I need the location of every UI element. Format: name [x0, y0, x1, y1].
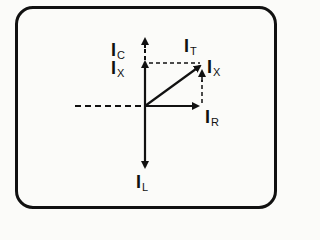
label-il: IL	[136, 173, 148, 193]
label-it: IT	[184, 37, 197, 57]
label-ir: IR	[205, 108, 219, 128]
label-ix-right: IX	[207, 58, 220, 78]
it-arrow	[145, 66, 200, 106]
label-ix-left: IX	[111, 59, 124, 79]
